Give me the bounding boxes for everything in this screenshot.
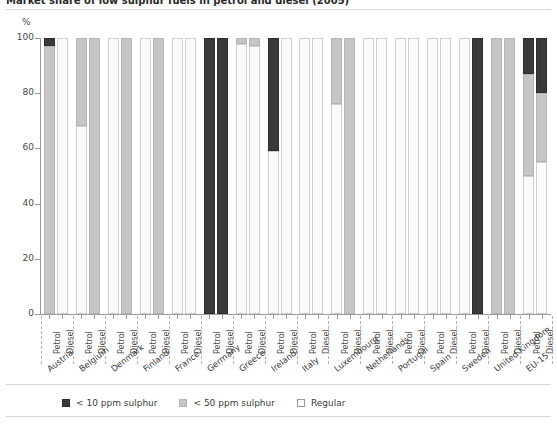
bar-segment-s50	[249, 38, 260, 46]
chart-title: Market share of low sulphur fuels in pet…	[6, 0, 349, 6]
bar-belgium-petrol	[76, 38, 87, 314]
legend-item: < 50 ppm sulphur	[179, 398, 274, 408]
bar-segment-reg	[312, 38, 323, 314]
x-axis-fuel-label-petrol: Petrol	[245, 331, 254, 354]
x-axis-group-separator	[456, 316, 457, 364]
x-axis-sub-tick	[254, 315, 255, 319]
x-axis-group-separator	[520, 316, 521, 364]
bar-sweden-petrol	[459, 38, 470, 314]
x-axis-sub-tick	[158, 315, 159, 319]
x-axis-sub-tick	[49, 315, 50, 319]
bar-eu-15-petrol	[523, 38, 534, 314]
x-axis-fuel-label-petrol: Petrol	[149, 331, 158, 354]
bar-netherlands-diesel	[376, 38, 387, 314]
x-axis-line	[40, 314, 551, 315]
bar-segment-reg	[236, 44, 247, 314]
x-axis-sub-tick	[126, 315, 127, 319]
x-axis-sub-tick	[446, 315, 447, 319]
x-axis-sub-tick	[145, 315, 146, 319]
x-axis-group-separator	[424, 316, 425, 364]
bar-austria-diesel	[57, 38, 68, 314]
bar-france-petrol	[172, 38, 183, 314]
bar-segment-s50	[536, 93, 547, 162]
x-axis-group-separator	[328, 316, 329, 364]
x-axis-fuel-label-petrol: Petrol	[85, 331, 94, 354]
y-axis-unit-label: %	[22, 17, 31, 27]
plot-area	[40, 38, 551, 314]
bar-portugal-petrol	[395, 38, 406, 314]
x-axis-country-label: Germany	[205, 342, 242, 374]
x-axis-group-separator	[169, 316, 170, 364]
y-axis-tick-label: 60	[8, 142, 34, 152]
bar-belgium-diesel	[89, 38, 100, 314]
x-axis-group-separator	[392, 316, 393, 364]
bar-segment-s10	[268, 38, 279, 151]
bar-luxembourg-petrol	[331, 38, 342, 314]
bar-france-diesel	[185, 38, 196, 314]
y-axis-tick-label: 100	[8, 32, 34, 42]
bar-segment-reg	[108, 38, 119, 314]
bar-luxembourg-diesel	[344, 38, 355, 314]
x-axis-group-separator	[265, 316, 266, 364]
x-axis-fuel-label-petrol: Petrol	[405, 331, 414, 354]
bar-segment-s10	[536, 38, 547, 93]
bar-segment-s50	[504, 38, 515, 314]
x-axis-fuel-label-petrol: Petrol	[181, 331, 190, 354]
bar-segment-s50	[76, 38, 87, 126]
x-axis-group-separator	[137, 316, 138, 364]
bar-segment-reg	[299, 38, 310, 314]
x-axis-group-separator	[552, 316, 553, 364]
bar-segment-reg	[249, 46, 260, 314]
x-axis-fuel-label-petrol: Petrol	[469, 331, 478, 354]
x-axis-fuel-label-petrol: Petrol	[341, 331, 350, 354]
x-axis-sub-tick	[401, 315, 402, 319]
x-axis-group-separator	[41, 316, 42, 364]
x-axis-fuel-label-petrol: Petrol	[309, 331, 318, 354]
bar-segment-s10	[44, 38, 55, 46]
x-axis-sub-tick	[318, 315, 319, 319]
bar-segment-s50	[491, 38, 502, 314]
bar-segment-reg	[427, 38, 438, 314]
bar-segment-reg	[57, 38, 68, 314]
bar-segment-s10	[217, 38, 228, 314]
chart-legend: < 10 ppm sulphur< 50 ppm sulphurRegular	[62, 398, 368, 408]
x-axis-fuel-label-petrol: Petrol	[501, 331, 510, 354]
legend-swatch-s10	[62, 399, 70, 407]
y-axis-tick-label: 20	[8, 253, 34, 263]
bar-segment-reg	[268, 151, 279, 314]
x-axis-country-label: Spain	[428, 351, 453, 374]
x-axis-sub-tick	[510, 315, 511, 319]
bar-segment-reg	[363, 38, 374, 314]
x-axis-sub-tick	[81, 315, 82, 319]
title-divider	[6, 9, 551, 10]
bar-segment-s50	[121, 38, 132, 314]
bar-segment-s50	[344, 38, 355, 314]
bar-portugal-diesel	[408, 38, 419, 314]
legend-divider	[6, 384, 551, 385]
bar-united-kingdom-diesel	[504, 38, 515, 314]
x-axis-fuel-label-diesel: Diesel	[322, 329, 331, 354]
x-axis-fuel-label-petrol: Petrol	[277, 331, 286, 354]
bar-segment-s50	[523, 74, 534, 176]
bar-segment-reg	[140, 38, 151, 314]
bar-denmark-diesel	[121, 38, 132, 314]
bar-spain-petrol	[427, 38, 438, 314]
x-axis-group-separator	[105, 316, 106, 364]
bar-segment-reg	[76, 126, 87, 314]
bar-segment-s50	[44, 46, 55, 314]
bar-segment-reg	[440, 38, 451, 314]
x-axis-fuel-label-petrol: Petrol	[53, 331, 62, 354]
x-axis-sub-tick	[222, 315, 223, 319]
legend-item: < 10 ppm sulphur	[62, 398, 157, 408]
bar-segment-reg	[523, 176, 534, 314]
x-axis-sub-tick	[62, 315, 63, 319]
bar-austria-petrol	[44, 38, 55, 314]
x-axis-group-separator	[233, 316, 234, 364]
x-axis-sub-tick	[337, 315, 338, 319]
bar-ireland-diesel	[281, 38, 292, 314]
x-axis-country-label: Italy	[300, 355, 321, 374]
x-axis-group-separator	[73, 316, 74, 364]
x-axis-sub-tick	[305, 315, 306, 319]
x-axis-sub-tick	[369, 315, 370, 319]
bar-greece-diesel	[249, 38, 260, 314]
